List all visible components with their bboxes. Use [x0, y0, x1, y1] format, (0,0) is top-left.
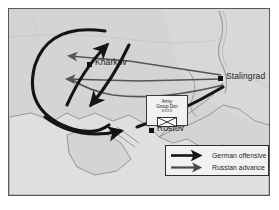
right-arrow-icon [170, 150, 208, 161]
legend-label-russian: Russian advance [212, 164, 265, 171]
city-label-stalingrad: Stalingrad [226, 71, 265, 81]
unit-title-line1: Army [147, 96, 187, 104]
legend-box: German offensive Russian advance [165, 145, 269, 176]
figure-root: Kharkov Stalingrad Rostov Army Group Don… [0, 0, 279, 210]
map-frame: Kharkov Stalingrad Rostov Army Group Don… [8, 8, 270, 196]
army-group-hq-symbol [157, 117, 177, 127]
figure-caption [10, 200, 272, 208]
right-arrow-icon [170, 162, 208, 173]
unit-echelon-label: XXXX [147, 109, 187, 113]
city-label-kharkov: Kharkov [95, 57, 127, 67]
legend-row-russian: Russian advance [170, 161, 264, 173]
legend-row-german: German offensive [170, 149, 264, 161]
city-marker-stalingrad [218, 76, 223, 81]
legend-label-german: German offensive [212, 152, 266, 159]
unit-box-army-group-don: Army Group Don XXXX [146, 95, 188, 126]
city-marker-kharkov [87, 62, 92, 67]
